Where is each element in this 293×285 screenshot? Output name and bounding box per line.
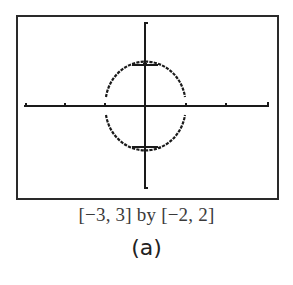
panel-label: (a) <box>0 235 293 260</box>
calculator-graph <box>0 0 293 210</box>
window-frame <box>17 16 278 199</box>
window-caption: [−3, 3] by [−2, 2] <box>0 204 293 226</box>
